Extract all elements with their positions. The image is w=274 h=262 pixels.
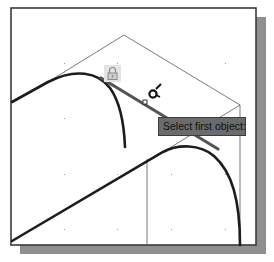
tooltip-text: Select first object: xyxy=(163,120,246,132)
snap-marker-icon xyxy=(143,100,147,104)
lock-badge[interactable] xyxy=(104,65,121,82)
lock-icon xyxy=(104,65,121,82)
command-prompt-tooltip: Select first object: xyxy=(158,117,246,136)
